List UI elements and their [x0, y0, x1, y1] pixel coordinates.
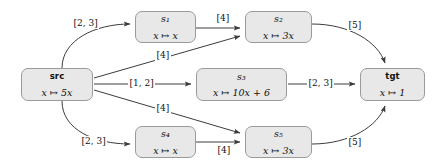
node-s1-body: x ↦ x: [136, 27, 195, 44]
node-s5[interactable]: s₅ x ↦ 3x: [245, 126, 312, 158]
node-s1-title: s₁: [136, 11, 195, 27]
node-s4-body: x ↦ x: [136, 142, 195, 159]
node-src-title: src: [22, 68, 92, 84]
node-s4[interactable]: s₄ x ↦ x: [135, 126, 196, 158]
node-src[interactable]: src x ↦ 5x: [21, 68, 93, 101]
node-s3-title: s₃: [197, 68, 286, 84]
node-src-body: x ↦ 5x: [22, 84, 92, 102]
node-tgt-body: x ↦ 1: [361, 84, 424, 102]
edge-label-s4-s5: [4]: [216, 145, 232, 156]
edge-label-src-s3: [1, 2]: [128, 78, 155, 89]
node-s3-body: x ↦ 10x + 6: [197, 84, 286, 101]
edge-label-src-s1: [2, 3]: [72, 18, 99, 29]
node-tgt[interactable]: tgt x ↦ 1: [360, 68, 425, 101]
edge-label-s1-s2: [4]: [215, 13, 231, 24]
node-s5-title: s₅: [246, 126, 311, 142]
diagram-canvas: src x ↦ 5x s₁ x ↦ x s₂ x ↦ 3x s₃ x ↦ 10x…: [0, 0, 440, 167]
node-s3[interactable]: s₃ x ↦ 10x + 6: [196, 68, 287, 101]
node-s2-title: s₂: [246, 11, 311, 27]
node-s2[interactable]: s₂ x ↦ 3x: [245, 11, 312, 43]
edge-label-s5-tgt: [5]: [347, 137, 363, 148]
edge-label-s2-tgt: [5]: [347, 20, 363, 31]
node-s1[interactable]: s₁ x ↦ x: [135, 11, 196, 43]
node-tgt-title: tgt: [361, 68, 424, 84]
edge-label-s3-tgt: [2, 3]: [307, 78, 334, 89]
edge-label-src-s4: [2, 3]: [80, 136, 107, 147]
edge-label-src-s2: [4]: [155, 50, 171, 61]
node-s5-body: x ↦ 3x: [246, 142, 311, 159]
edge-label-src-s5: [4]: [155, 103, 171, 114]
edge-src-s1: [62, 24, 130, 68]
node-s2-body: x ↦ 3x: [246, 27, 311, 44]
node-s4-title: s₄: [136, 126, 195, 142]
